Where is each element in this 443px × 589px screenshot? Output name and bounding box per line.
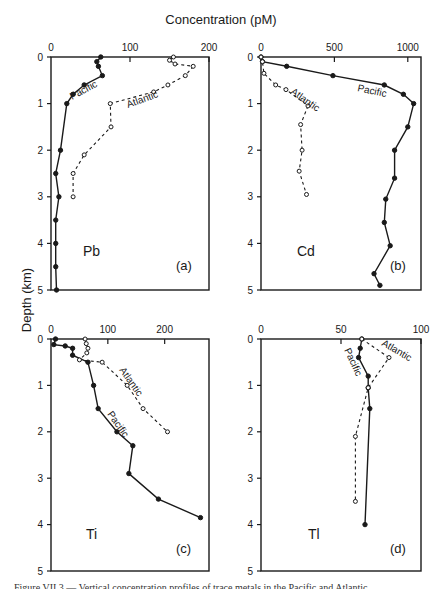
x-tick-label: 500	[326, 42, 343, 53]
filled-marker	[331, 73, 335, 77]
open-marker	[77, 358, 81, 362]
open-marker	[353, 434, 357, 438]
filled-marker	[96, 64, 100, 68]
y-tick-label: 5	[247, 285, 253, 296]
filled-marker	[382, 220, 386, 224]
panel-ti: 0100200012345PacificAtlanticTi(c)	[37, 324, 209, 577]
y-tick-label: 0	[247, 52, 253, 63]
filled-marker	[91, 383, 95, 387]
panel-id-label: (b)	[390, 258, 406, 273]
open-marker	[86, 346, 90, 350]
series-line-atlantic	[73, 57, 193, 197]
x-tick-label: 100	[99, 324, 116, 335]
x-tick-label: 50	[335, 324, 347, 335]
y-tick-label: 4	[247, 519, 253, 530]
open-marker	[387, 356, 391, 360]
filled-marker	[54, 265, 58, 269]
open-marker	[166, 430, 170, 434]
y-tick-label: 2	[37, 426, 43, 437]
x-tick-label: 0	[258, 42, 264, 53]
y-axis-label: Depth (km)	[19, 268, 34, 332]
open-marker	[259, 55, 263, 59]
series-label-pacific: Pacific	[105, 409, 131, 439]
filled-marker	[388, 244, 392, 248]
panel-tl: 050100012345PacificAtlanticTl(d)	[247, 324, 429, 577]
filled-marker	[63, 344, 67, 348]
filled-marker	[392, 148, 396, 152]
series-line-pacific	[261, 57, 414, 285]
open-marker	[274, 83, 278, 87]
filled-marker	[406, 125, 410, 129]
filled-marker	[411, 101, 415, 105]
panel-id-label: (d)	[390, 541, 406, 556]
y-tick-label: 2	[37, 145, 43, 156]
filled-marker	[378, 283, 382, 287]
figure-caption: Figure VII.3 — Vertical concentration pr…	[14, 581, 434, 589]
open-marker	[85, 351, 89, 355]
open-marker	[299, 123, 303, 127]
filled-marker	[358, 346, 362, 350]
y-tick-label: 4	[37, 238, 43, 249]
filled-marker	[368, 406, 372, 410]
filled-marker	[65, 101, 69, 105]
filled-marker	[100, 73, 104, 77]
filled-marker	[96, 406, 100, 410]
open-marker	[171, 55, 175, 59]
panel-id-label: (a)	[176, 258, 192, 273]
element-label: Cd	[297, 243, 315, 259]
open-marker	[108, 102, 112, 106]
open-marker	[353, 499, 357, 503]
filled-marker	[392, 176, 396, 180]
open-marker	[168, 58, 172, 62]
y-tick-label: 3	[37, 191, 43, 202]
open-marker	[297, 169, 301, 173]
filled-marker	[54, 218, 58, 222]
y-tick-label: 3	[247, 473, 253, 484]
filled-marker	[57, 195, 61, 199]
open-marker	[173, 62, 177, 66]
open-marker	[305, 192, 309, 196]
filled-marker	[54, 241, 58, 245]
open-marker	[82, 153, 86, 157]
filled-marker	[58, 148, 62, 152]
open-marker	[183, 74, 187, 78]
filled-marker	[53, 337, 57, 341]
x-tick-label: 200	[201, 42, 218, 53]
filled-marker	[70, 353, 74, 357]
filled-marker	[70, 346, 74, 350]
filled-marker	[156, 497, 160, 501]
y-tick-label: 1	[247, 98, 253, 109]
y-tick-label: 0	[37, 334, 43, 345]
filled-marker	[99, 55, 103, 59]
open-marker	[191, 64, 195, 68]
panel-pb: 0100200012345PacificAtlanticPb(a)	[37, 42, 217, 296]
y-tick-label: 2	[247, 145, 253, 156]
filled-marker	[95, 59, 99, 63]
x-tick-label: 100	[413, 324, 430, 335]
x-tick-label: 0	[258, 324, 264, 335]
filled-marker	[198, 515, 202, 519]
series-label-atlantic: Atlantic	[125, 88, 160, 110]
filled-marker	[384, 197, 388, 201]
open-marker	[360, 337, 364, 341]
filled-marker	[366, 374, 370, 378]
y-tick-label: 5	[247, 566, 253, 577]
y-tick-label: 3	[37, 473, 43, 484]
open-marker	[141, 407, 145, 411]
open-marker	[71, 172, 75, 176]
y-tick-label: 3	[247, 191, 253, 202]
y-tick-label: 4	[37, 519, 43, 530]
filled-marker	[52, 342, 56, 346]
open-marker	[100, 360, 104, 364]
open-marker	[83, 337, 87, 341]
panel-cd: 05001000012345PacificAtlanticCd(b)	[247, 42, 421, 296]
y-tick-label: 0	[247, 334, 253, 345]
open-marker	[366, 386, 370, 390]
y-tick-label: 1	[247, 380, 253, 391]
element-label: Tl	[308, 526, 320, 542]
element-label: Ti	[86, 526, 97, 542]
filled-marker	[401, 92, 405, 96]
y-tick-label: 5	[37, 566, 43, 577]
panel-id-label: (c)	[176, 541, 191, 556]
series-label-pacific: Pacific	[68, 78, 99, 102]
